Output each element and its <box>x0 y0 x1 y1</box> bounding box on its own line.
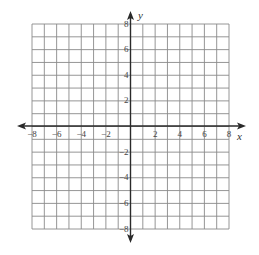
x-tick-label: −6 <box>52 129 62 139</box>
x-tick-label: −2 <box>101 129 111 139</box>
axes <box>17 11 246 243</box>
x-tick-label: 4 <box>178 129 183 139</box>
y-tick-label: 2 <box>124 95 129 105</box>
x-tick-label: 2 <box>153 129 158 139</box>
x-axis-label: x <box>236 130 242 142</box>
y-tick-label: −2 <box>119 147 129 157</box>
y-tick-label: −8 <box>119 224 129 234</box>
coordinate-plane: y x −8−6−4−22468 8642−2−4−6−8 <box>0 0 259 255</box>
y-tick-label: 4 <box>124 70 129 80</box>
x-tick-labels: −8−6−4−22468 <box>27 129 232 139</box>
x-tick-label: −4 <box>76 129 86 139</box>
y-tick-label: −6 <box>119 198 129 208</box>
y-tick-label: −4 <box>119 172 129 182</box>
y-tick-label: 8 <box>124 19 129 29</box>
y-axis-label: y <box>137 9 143 21</box>
y-tick-label: 6 <box>124 44 129 54</box>
x-tick-label: 6 <box>202 129 207 139</box>
x-tick-label: 8 <box>227 129 232 139</box>
x-tick-label: −8 <box>27 129 37 139</box>
